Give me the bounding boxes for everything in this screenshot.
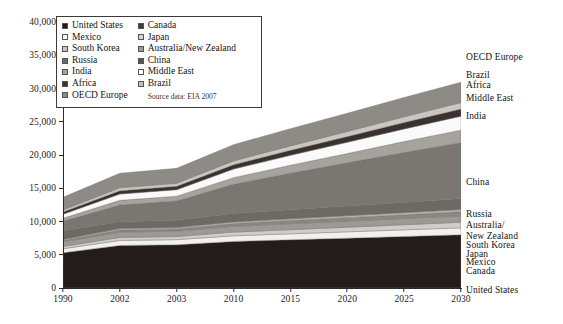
series-annotation-label: Australia/ [466, 220, 504, 230]
legend-swatch-icon [62, 58, 68, 64]
legend-label: Brazil [148, 78, 171, 90]
legend-swatch-icon [62, 46, 68, 52]
legend-source-note: Source data: EIA 2007 [148, 92, 236, 101]
series-annotation-label: India [466, 111, 486, 121]
legend-label: Japan [148, 32, 170, 44]
legend-item[interactable]: OECD Europe [62, 90, 128, 102]
legend-swatch-icon [62, 69, 68, 75]
x-tick-label: 2015 [281, 294, 300, 304]
x-axis-tick: 2020 [338, 288, 357, 304]
y-tick-label: 5,000 [34, 250, 56, 260]
chart-root: 40,00035,00030,00025,00020,00015,00010,0… [0, 0, 563, 324]
x-tick-label: 2020 [338, 294, 357, 304]
legend-label: Australia/New Zealand [148, 43, 236, 55]
series-annotation-label: Russia [466, 209, 492, 219]
y-tick-label: 25,000 [29, 117, 56, 127]
legend-label: OECD Europe [72, 90, 128, 102]
series-annotation-label: Canada [466, 266, 495, 276]
legend-label: United States [72, 20, 123, 32]
legend-item[interactable]: Canada [138, 20, 236, 32]
x-axis-ticks: 19902002200320102015202020252030 [63, 288, 462, 318]
x-axis-tick: 2025 [394, 288, 413, 304]
legend-item[interactable]: Mexico [62, 32, 128, 44]
series-annotation-label: Brazil [466, 70, 490, 80]
y-tick-mark [59, 254, 63, 255]
y-axis-tick: 5,000 [34, 250, 63, 260]
x-tick-mark [63, 288, 64, 292]
legend-swatch-icon [62, 23, 68, 29]
legend-swatch-icon [138, 81, 144, 87]
legend-item[interactable]: United States [62, 20, 128, 32]
x-axis-tick: 2010 [224, 288, 243, 304]
x-tick-mark [290, 288, 291, 292]
legend-item[interactable]: Brazil [138, 78, 236, 90]
legend-item[interactable]: Africa [62, 78, 128, 90]
x-tick-mark [176, 288, 177, 292]
y-tick-label: 10,000 [29, 217, 56, 227]
y-tick-mark [59, 221, 63, 222]
y-tick-label: 40,000 [29, 17, 56, 27]
x-tick-mark [347, 288, 348, 292]
legend-swatch-icon [62, 81, 68, 87]
legend-item[interactable]: Middle East [138, 66, 236, 78]
legend-column-left: United StatesMexicoSouth KoreaRussiaIndi… [62, 20, 128, 101]
legend-item[interactable]: China [138, 55, 236, 67]
y-tick-label: 20,000 [29, 150, 56, 160]
legend-label: South Korea [72, 43, 120, 55]
series-annotation-label: Middle East [466, 93, 513, 103]
legend-swatch-icon [138, 34, 144, 40]
legend-swatch-icon [138, 23, 144, 29]
legend-label: Africa [72, 78, 96, 90]
x-tick-mark [461, 288, 462, 292]
legend-label: China [148, 55, 171, 67]
series-annotation-label: Africa [466, 80, 491, 90]
y-axis-ticks: 40,00035,00030,00025,00020,00015,00010,0… [0, 0, 63, 324]
y-tick-label: 30,000 [29, 84, 56, 94]
x-tick-label: 2010 [224, 294, 243, 304]
legend-swatch-icon [138, 46, 144, 52]
y-tick-mark [59, 188, 63, 189]
y-tick-mark [59, 155, 63, 156]
series-annotations: OECD EuropeBrazilAfricaMiddle EastIndiaC… [466, 0, 563, 324]
y-tick-mark [59, 121, 63, 122]
legend-label: Russia [72, 55, 97, 67]
x-axis-tick: 2002 [110, 288, 129, 304]
legend-swatch-icon [138, 58, 144, 64]
legend-label: Canada [148, 20, 177, 32]
x-axis-tick: 1990 [53, 288, 72, 304]
legend-box: United StatesMexicoSouth KoreaRussiaIndi… [56, 16, 262, 108]
series-annotation-label: OECD Europe [466, 52, 523, 62]
y-axis-tick: 10,000 [29, 217, 63, 227]
x-tick-mark [233, 288, 234, 292]
legend-swatch-icon [62, 34, 68, 40]
x-tick-mark [119, 288, 120, 292]
x-tick-mark [404, 288, 405, 292]
x-tick-label: 2002 [110, 294, 129, 304]
series-annotation-label: China [466, 177, 489, 187]
y-axis-tick: 25,000 [29, 117, 63, 127]
legend-label: Middle East [148, 66, 194, 78]
legend-item[interactable]: India [62, 66, 128, 78]
legend-swatch-icon [138, 69, 144, 75]
y-axis-tick: 15,000 [29, 183, 63, 193]
x-tick-label: 2003 [167, 294, 186, 304]
legend-swatch-icon [62, 92, 68, 98]
y-tick-label: 15,000 [29, 183, 56, 193]
legend-item[interactable]: Japan [138, 32, 236, 44]
legend-column-right: CanadaJapanAustralia/New ZealandChinaMid… [138, 20, 236, 101]
series-annotation-label: United States [466, 285, 518, 295]
y-axis-tick: 20,000 [29, 150, 63, 160]
x-tick-label: 1990 [53, 294, 72, 304]
x-tick-label: 2025 [394, 294, 413, 304]
legend-item[interactable]: Russia [62, 55, 128, 67]
legend-item[interactable]: Australia/New Zealand [138, 43, 236, 55]
x-axis-tick: 2003 [167, 288, 186, 304]
legend-label: Mexico [72, 32, 101, 44]
legend-label: India [72, 66, 92, 78]
y-tick-label: 35,000 [29, 50, 56, 60]
legend-item[interactable]: South Korea [62, 43, 128, 55]
x-axis-tick: 2015 [281, 288, 300, 304]
